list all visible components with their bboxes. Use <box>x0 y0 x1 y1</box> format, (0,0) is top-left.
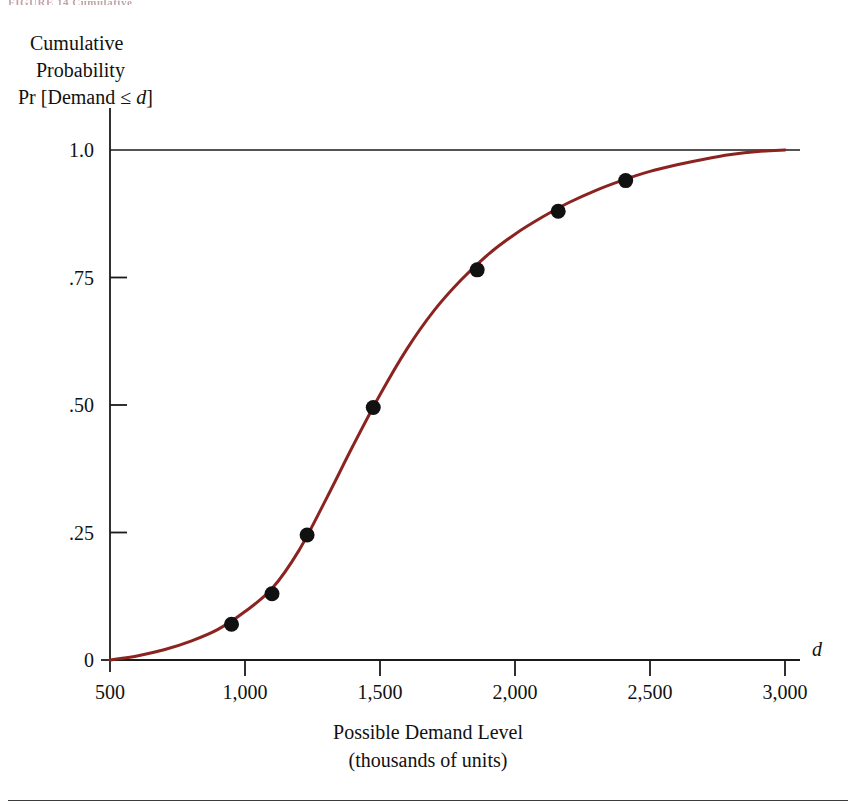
data-point <box>366 400 381 415</box>
y-tick-label: .75 <box>24 268 94 288</box>
x-tick-label: 1,500 <box>335 682 425 702</box>
x-tick-label: 1,000 <box>200 682 290 702</box>
x-axis-variable-label: d <box>812 638 822 661</box>
y-tick-label: 1.0 <box>24 140 94 160</box>
x-tick-label: 500 <box>65 682 155 702</box>
plot-area: 0.25.50.751.05001,0001,5002,0002,5003,00… <box>0 0 856 809</box>
y-tick-label: .25 <box>24 523 94 543</box>
x-tick-label: 2,500 <box>605 682 695 702</box>
figure-bottom-rule <box>8 800 848 801</box>
figure-container: FIGURE 14 Cumulative Cumulative Probabil… <box>0 0 856 809</box>
data-point <box>224 617 239 632</box>
y-tick-label: 0 <box>24 650 94 670</box>
x-tick-label: 3,000 <box>740 682 830 702</box>
data-point <box>265 586 280 601</box>
x-axis-title-line-2: (thousands of units) <box>0 746 856 774</box>
x-axis-title: Possible Demand Level (thousands of unit… <box>0 718 856 774</box>
y-tick-label: .50 <box>24 395 94 415</box>
data-point <box>618 173 633 188</box>
data-point <box>470 262 485 277</box>
data-point <box>551 204 566 219</box>
cumulative-probability-curve <box>110 150 785 660</box>
data-point <box>300 528 315 543</box>
x-tick-label: 2,000 <box>470 682 560 702</box>
x-axis-title-line-1: Possible Demand Level <box>0 718 856 746</box>
